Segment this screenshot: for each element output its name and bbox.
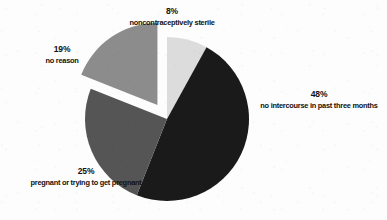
pie-label-pregnant: 25% pregnant or trying to get pregnant (6, 166, 166, 187)
pie-label-description: noncontraceptively sterile (92, 18, 252, 27)
pie-label-percent: 48% (251, 89, 387, 100)
pie-chart-figure: 8% noncontraceptively sterile 48% no int… (0, 0, 387, 220)
pie-label-noncontraceptively-sterile: 8% noncontraceptively sterile (92, 6, 252, 27)
pie-label-description: no intercourse in past three months (251, 101, 387, 110)
pie-label-description: no reason (14, 56, 110, 65)
pie-label-description: pregnant or trying to get pregnant (6, 178, 166, 187)
pie-label-no-intercourse: 48% no intercourse in past three months (251, 89, 387, 110)
pie-label-percent: 19% (14, 44, 110, 55)
pie-label-percent: 8% (92, 6, 252, 17)
pie-label-percent: 25% (6, 166, 166, 177)
pie-label-no-reason: 19% no reason (14, 44, 110, 65)
